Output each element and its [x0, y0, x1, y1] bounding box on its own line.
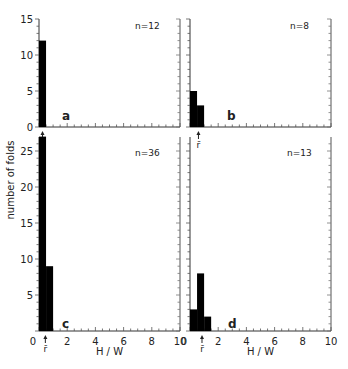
- panel-c: 5101520250246810H / Wr̄cn=36: [20, 137, 186, 357]
- panel-d: 0246810H / Wr̄dn=13: [181, 137, 338, 357]
- mean-marker-label: r̄: [197, 140, 202, 150]
- histogram-bar: [39, 137, 46, 331]
- y-tick-label: 15: [20, 218, 33, 229]
- x-axis-label: H / W: [96, 346, 123, 357]
- sample-size-annotation: n=8: [290, 21, 309, 31]
- x-tick-label: 10: [325, 336, 338, 347]
- histogram-bar: [204, 317, 211, 331]
- y-tick-label: 5: [27, 290, 33, 301]
- histogram-bar: [39, 41, 46, 127]
- x-tick-label: 8: [149, 336, 155, 347]
- sample-size-annotation: n=36: [135, 148, 160, 158]
- y-tick-label: 15: [20, 14, 33, 25]
- y-tick-label: 25: [20, 146, 33, 157]
- x-axis-label: H / W: [247, 346, 274, 357]
- x-tick-label: 2: [215, 336, 221, 347]
- panel-letter: a: [62, 109, 70, 123]
- x-tick-label: 0: [30, 336, 36, 347]
- histogram-bar: [197, 105, 204, 127]
- mean-arrowhead-icon: [200, 335, 204, 339]
- panel-letter: d: [228, 317, 237, 331]
- y-tick-label: 5: [27, 86, 33, 97]
- panel-b: r̄bn=8: [186, 19, 331, 150]
- histogram-bar: [190, 309, 197, 331]
- x-tick-label: 2: [64, 336, 70, 347]
- y-tick-label: 0: [27, 122, 33, 133]
- mean-arrowhead-icon: [43, 335, 47, 339]
- mean-marker-label: r̄: [200, 344, 205, 354]
- mean-arrowhead-icon: [196, 131, 200, 135]
- sample-size-annotation: n=12: [135, 21, 160, 31]
- y-tick-label: 10: [20, 254, 33, 265]
- y-axis-label: number of folds: [5, 141, 16, 220]
- x-tick-label: 8: [300, 336, 306, 347]
- x-tick-label: 0: [181, 336, 187, 347]
- sample-size-annotation: n=13: [287, 148, 312, 158]
- mean-marker-label: r̄: [43, 344, 48, 354]
- panel-letter: c: [62, 317, 69, 331]
- histogram-bar: [46, 266, 53, 331]
- mean-arrowhead-icon: [41, 131, 45, 135]
- histogram-figure: 051015r̄an=12r̄bn=85101520250246810H / W…: [0, 0, 348, 369]
- y-tick-label: 20: [20, 182, 33, 193]
- histogram-bar: [190, 91, 197, 127]
- histogram-bar: [197, 273, 204, 331]
- panel-a: 051015r̄an=12: [20, 14, 180, 150]
- panel-letter: b: [227, 109, 236, 123]
- y-tick-label: 10: [20, 50, 33, 61]
